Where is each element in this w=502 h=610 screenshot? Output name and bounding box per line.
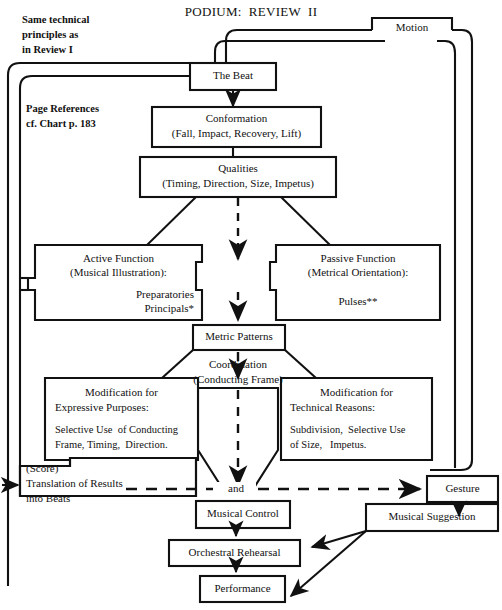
active-function-box <box>28 245 202 320</box>
orchestral-rehearsal-box <box>169 540 300 566</box>
motion-box-shape <box>372 18 452 30</box>
diagram-canvas <box>0 0 502 610</box>
performance-box <box>200 576 285 602</box>
metric-patterns-box <box>193 325 285 350</box>
qualities-box <box>140 157 336 197</box>
line-beat-feed-b <box>215 41 225 63</box>
podium-review-ii-diagram: PODIUM: REVIEW II Same technical princip… <box>0 0 502 610</box>
modification-technical-box <box>281 378 432 460</box>
musical-suggestion-box <box>366 504 498 531</box>
conformation-box <box>152 107 321 147</box>
musical-control-box <box>196 501 290 528</box>
modification-expressive-box <box>45 378 198 460</box>
line-beat-feed-a <box>226 30 237 63</box>
active-function-left-stubs <box>20 278 28 290</box>
passive-function-box <box>270 245 440 320</box>
gesture-box <box>427 476 498 502</box>
